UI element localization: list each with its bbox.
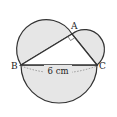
geometry-diagram: 6 cm A B C <box>0 0 117 117</box>
bc-length-label: 6 cm <box>48 66 69 76</box>
point-c-label: C <box>99 61 106 71</box>
point-a-label: A <box>70 21 78 31</box>
point-b-label: B <box>11 61 18 71</box>
